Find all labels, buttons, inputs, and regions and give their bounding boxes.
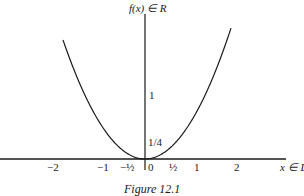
y-tick-quarter: 1/4: [148, 137, 162, 148]
figure-caption: Figure 12.1: [124, 183, 180, 195]
x-tick-minus-2: −2: [47, 162, 59, 173]
x-tick-minus-half: −½: [120, 162, 134, 173]
y-tick-1: 1: [149, 90, 155, 101]
x-tick-2: 2: [234, 162, 240, 173]
x-tick-minus-1: −1: [97, 162, 109, 173]
parabola-curve-precise: [63, 28, 231, 159]
y-axis-label: f(x) ∈ R: [129, 3, 166, 14]
x-axis-label: x ∈ D: [280, 162, 304, 173]
x-tick-0: 0: [148, 162, 154, 173]
x-tick-half: ½: [169, 162, 177, 173]
x-tick-1: 1: [194, 162, 200, 173]
